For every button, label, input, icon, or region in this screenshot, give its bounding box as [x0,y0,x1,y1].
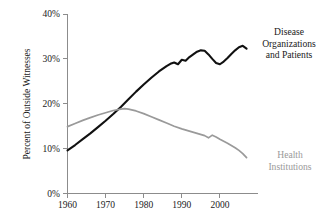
x-tick-label: 1970 [96,200,115,210]
health-institutions-label: HealthInstitutions [268,149,311,172]
x-tick-label: 1990 [172,200,191,210]
series-label-line: Disease [274,26,304,37]
series-label-line: and Patients [266,49,313,60]
disease-organizations-label: DiseaseOrganizationsand Patients [262,26,316,60]
series-line-health-institutions [68,109,247,158]
x-tick-label: 2000 [210,200,229,210]
x-tick-label: 1980 [134,200,153,210]
series-label-line: Health [277,149,303,160]
y-tick-label: 20% [43,99,61,109]
series-paths [68,46,247,158]
series-label-line: Organizations [262,38,316,49]
series-labels: DiseaseOrganizationsand PatientsHealthIn… [262,26,316,172]
x-tick-label: 1960 [58,200,77,210]
y-axis-title: Percent of Outside Witnesses [22,48,32,159]
chart-container: Percent of Outside Witnesses 0%10%20%30%… [0,0,327,223]
y-tick-label: 10% [43,144,61,154]
x-axis-ticks: 19601970198019902000 [58,194,230,211]
line-chart-figure: Percent of Outside Witnesses 0%10%20%30%… [0,0,327,223]
series-line-disease-organizations [68,46,247,151]
y-tick-label: 40% [43,9,61,19]
y-axis-ticks: 0%10%20%30%40% [43,9,68,199]
series-label-line: Institutions [268,161,311,172]
y-tick-label: 30% [43,54,61,64]
y-tick-label: 0% [47,189,60,199]
